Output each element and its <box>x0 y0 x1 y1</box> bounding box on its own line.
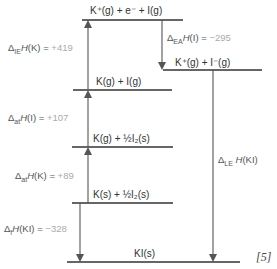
level-product-label: KI(s) <box>134 248 155 260</box>
step-ea-label: ΔEAH(I) = −295 <box>167 32 231 48</box>
marks-label: [5] <box>256 250 271 265</box>
level-top-label: K⁺(g) + e⁻ + I(g) <box>90 5 162 17</box>
level-kgas-label: K(g) + ½I₂(s) <box>93 133 150 145</box>
step-le-label: ΔLE H(KI) <box>218 154 258 170</box>
level-elements-label: K(s) + ½I₂(s) <box>93 189 149 201</box>
step-ie-label: ΔIEH(K) = +419 <box>8 42 73 58</box>
level-ions-label: K⁺(g) + I⁻(g) <box>175 57 230 69</box>
step-at-i-label: ΔatH(I) = +107 <box>8 112 68 128</box>
level-atoms-label: K(g) + I(g) <box>96 76 141 88</box>
step-at-k-label: ΔatH(K) = +89 <box>15 170 74 186</box>
step-f-label: ΔfH(KI) = −328 <box>4 223 67 239</box>
